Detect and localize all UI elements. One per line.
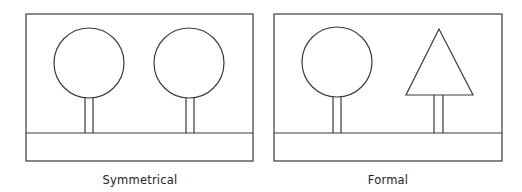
round-tree-left — [54, 28, 124, 133]
tree-canopy-circle — [154, 28, 224, 98]
tree-canopy-triangle — [406, 29, 473, 95]
round-tree — [302, 27, 372, 133]
tree-canopy-circle — [302, 27, 372, 97]
tree-canopy-circle — [54, 28, 124, 98]
caption-symmetrical: Symmetrical — [40, 173, 240, 187]
conical-tree — [406, 29, 473, 133]
diagram-canvas — [0, 0, 522, 192]
panel-frame — [274, 14, 502, 161]
round-tree-right — [154, 28, 224, 133]
panel-symmetrical — [26, 14, 253, 161]
caption-formal: Formal — [288, 173, 488, 187]
panel-frame — [26, 14, 253, 161]
panel-formal — [274, 14, 502, 161]
